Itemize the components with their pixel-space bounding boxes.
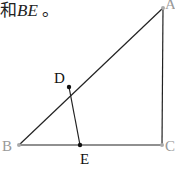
label-e: E — [80, 151, 89, 167]
label-d: D — [54, 70, 65, 86]
point-c — [160, 143, 164, 147]
segment-ac — [162, 8, 163, 145]
point-e — [78, 143, 82, 147]
label-b: B — [2, 138, 12, 154]
label-c: C — [165, 138, 175, 154]
segment-ab — [19, 8, 163, 145]
label-a: A — [165, 0, 175, 12]
point-d — [67, 85, 71, 89]
triangle-diagram: A B C D E — [0, 0, 175, 173]
point-b — [17, 143, 21, 147]
segment-de — [69, 87, 80, 145]
